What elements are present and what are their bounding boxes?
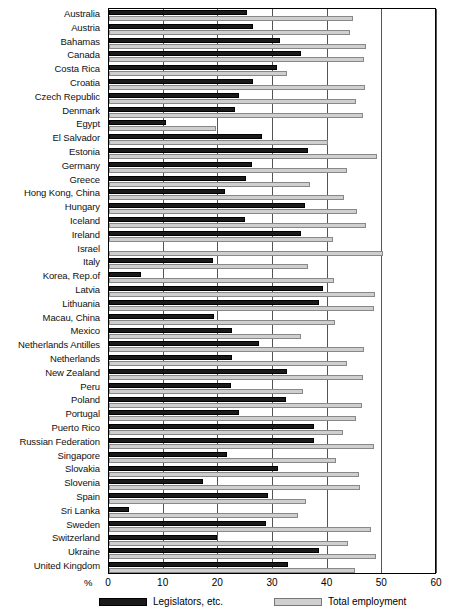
bar-total-employment <box>109 403 362 408</box>
plot-area <box>108 8 436 574</box>
bar-legislators <box>109 479 203 484</box>
bar-group <box>109 65 435 79</box>
bar-legislators <box>109 466 278 471</box>
bar-group <box>109 203 435 217</box>
bar-total-employment <box>109 251 383 256</box>
bar-legislators <box>109 65 277 70</box>
bar-total-employment <box>109 223 366 228</box>
bar-group <box>109 328 435 342</box>
category-label: Slovenia <box>64 478 100 488</box>
legend-label: Total employment <box>328 596 406 607</box>
category-label: Austria <box>71 23 100 33</box>
bar-total-employment <box>109 30 350 35</box>
bar-legislators <box>109 176 246 181</box>
category-label: Costa Rica <box>55 64 100 74</box>
x-tick-label: 10 <box>157 577 168 588</box>
bar-group <box>109 355 435 369</box>
bar-total-employment <box>109 375 363 380</box>
category-axis-labels: AustraliaAustriaBahamasCanadaCosta RicaC… <box>0 8 104 574</box>
category-label: Poland <box>71 395 100 405</box>
chart-container: AustraliaAustriaBahamasCanadaCosta RicaC… <box>0 0 449 614</box>
category-label: Estonia <box>69 147 100 157</box>
bars-layer <box>109 9 435 573</box>
bar-legislators <box>109 24 253 29</box>
bar-total-employment <box>109 195 344 200</box>
bar-group <box>109 10 435 24</box>
bar-total-employment <box>109 334 301 339</box>
bar-total-employment <box>109 126 216 131</box>
bar-total-employment <box>109 85 365 90</box>
bar-group <box>109 383 435 397</box>
bar-legislators <box>109 328 232 333</box>
bar-total-employment <box>109 430 343 435</box>
x-tick-label: 60 <box>430 577 441 588</box>
bar-legislators <box>109 107 235 112</box>
bar-total-employment <box>109 16 353 21</box>
bar-group <box>109 341 435 355</box>
bar-group <box>109 189 435 203</box>
bar-group <box>109 521 435 535</box>
bar-total-employment <box>109 209 357 214</box>
bar-group <box>109 438 435 452</box>
x-tick-label: 40 <box>321 577 332 588</box>
bar-total-employment <box>109 99 356 104</box>
category-label: Canada <box>67 50 100 60</box>
category-label: New Zealand <box>45 368 100 378</box>
category-label: Ireland <box>72 230 100 240</box>
bar-legislators <box>109 452 227 457</box>
bar-total-employment <box>109 554 376 559</box>
bar-total-employment <box>109 44 366 49</box>
bar-total-employment <box>109 347 364 352</box>
category-label: Netherlands Antilles <box>18 340 100 350</box>
bar-total-employment <box>109 264 308 269</box>
bar-legislators <box>109 134 262 139</box>
bar-total-employment <box>109 472 359 477</box>
legend-item: Total employment <box>274 596 406 607</box>
bar-legislators <box>109 314 214 319</box>
bar-total-employment <box>109 292 375 297</box>
bar-legislators <box>109 286 323 291</box>
bar-total-employment <box>109 154 377 159</box>
bar-total-employment <box>109 541 348 546</box>
bar-group <box>109 217 435 231</box>
category-label: Egypt <box>76 119 100 129</box>
bar-legislators <box>109 10 247 15</box>
bar-legislators <box>109 535 217 540</box>
bar-legislators <box>109 521 266 526</box>
chart-legend: Legislators, etc.Total employment <box>99 596 439 610</box>
bar-group <box>109 535 435 549</box>
bar-total-employment <box>109 361 347 366</box>
bar-total-employment <box>109 113 363 118</box>
bar-total-employment <box>109 458 336 463</box>
bar-legislators <box>109 493 268 498</box>
bar-legislators <box>109 507 129 512</box>
bar-total-employment <box>109 499 306 504</box>
bar-legislators <box>109 51 301 56</box>
bar-legislators <box>109 341 259 346</box>
category-label: Sri Lanka <box>61 506 100 516</box>
category-label: Macau, China <box>43 313 100 323</box>
category-label: Greece <box>69 175 100 185</box>
bar-group <box>109 134 435 148</box>
category-label: Korea, Rep.of <box>43 271 100 281</box>
bar-legislators <box>109 189 225 194</box>
category-label: Hungary <box>65 202 100 212</box>
bar-legislators <box>109 231 301 236</box>
category-label: Germany <box>62 161 100 171</box>
bar-legislators <box>109 410 239 415</box>
category-label: Russian Federation <box>19 437 100 447</box>
bar-legislators <box>109 162 252 167</box>
bar-total-employment <box>109 237 333 242</box>
category-label: Czech Republic <box>35 92 100 102</box>
legend-label: Legislators, etc. <box>153 596 223 607</box>
bar-group <box>109 231 435 245</box>
bar-group <box>109 107 435 121</box>
legend-swatch-icon <box>99 598 147 606</box>
bar-group <box>109 79 435 93</box>
legend-swatch-icon <box>274 598 322 606</box>
category-label: Israel <box>77 244 100 254</box>
bar-legislators <box>109 397 286 402</box>
category-label: Ukraine <box>68 547 100 557</box>
bar-group <box>109 410 435 424</box>
gridline-60 <box>436 9 437 573</box>
